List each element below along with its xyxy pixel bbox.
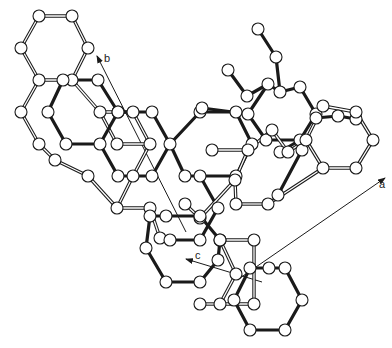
atoms [15,10,379,336]
atom [33,74,45,86]
atom [82,170,94,182]
atom [248,298,260,310]
atom [15,106,27,118]
axis-label-b: b [104,52,110,64]
atom [127,106,139,118]
molecule-bold-lower-middle-atoms [140,210,226,288]
axis-a-arrow [240,178,385,278]
atom [33,10,45,22]
atom [194,298,206,310]
atom [294,81,306,93]
atom [144,210,156,222]
atom [350,106,362,118]
atom [194,210,206,222]
atom [310,112,322,124]
atom [42,106,54,118]
atom [230,198,242,210]
atom [332,110,344,122]
atom [252,23,264,35]
atom [317,100,329,112]
atom [244,262,256,274]
atom [244,324,256,336]
atom [212,202,224,214]
atom [194,234,206,246]
atom [214,234,226,246]
molecule-bold-lower-right-bonds [234,268,302,330]
atom [279,324,291,336]
atom [230,268,242,280]
atom [270,51,282,63]
atom [164,138,176,150]
atom [164,234,176,246]
atom [274,86,286,98]
atom [194,276,206,288]
atom [66,10,78,22]
atom [127,170,139,182]
atom [263,262,275,274]
atom [212,254,224,266]
atom [112,170,124,182]
atom [229,174,241,186]
atom [94,106,106,118]
atom [228,294,240,306]
atom [60,138,72,150]
atom [15,42,27,54]
atom [262,78,274,90]
bond [170,112,200,144]
atom [282,146,294,158]
atom [222,64,234,76]
atom [160,276,172,288]
atom [144,138,156,150]
atom [242,144,254,156]
atom [241,90,253,102]
atom [82,42,94,54]
atom [317,162,329,174]
atom [214,298,226,310]
atom [146,106,158,118]
atom [350,162,362,174]
atom [111,138,123,150]
atom [300,134,312,146]
atom [92,74,104,86]
crystal-packing-drawing: a b c [0,0,392,348]
atom [279,262,291,274]
atom [179,170,191,182]
atom [242,108,254,120]
atom [179,198,191,210]
atom [296,294,308,306]
atom [262,198,274,210]
atom [140,242,152,254]
atom [272,189,284,201]
atom [160,210,172,222]
atom [146,170,158,182]
atom [94,138,106,150]
atom [266,124,278,136]
atom [57,74,69,86]
axis-label-c: c [195,249,201,261]
axis-label-a: a [379,178,386,190]
atom [49,154,61,166]
crystal-structure-diagram: a b c [0,0,392,348]
atom [111,202,123,214]
atom [206,144,218,156]
atom [112,106,124,118]
atom [248,234,260,246]
atom [196,102,208,114]
atom [230,106,242,118]
atom [367,134,379,146]
atom [33,138,45,150]
atom [194,170,206,182]
